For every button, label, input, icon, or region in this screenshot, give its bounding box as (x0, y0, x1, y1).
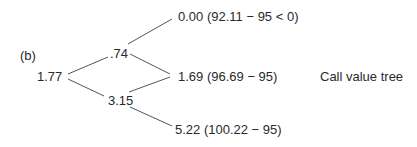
diagram-caption: Call value tree (320, 69, 403, 84)
leaf-uu-label: 0.00 (92.11 − 95 < 0) (178, 9, 298, 24)
panel-label: (b) (20, 48, 36, 63)
leaf-ud-label: 1.69 (96.69 − 95) (178, 69, 277, 84)
edge-down-dd (130, 107, 172, 126)
root-node-value: 1.77 (37, 69, 62, 84)
edge-down-ud (129, 77, 170, 92)
edge-up-ud (130, 54, 170, 74)
up-node-value: .74 (110, 46, 128, 61)
down-node-value: 3.15 (108, 93, 133, 108)
edge-root-up (68, 57, 108, 74)
leaf-dd-label: 5.22 (100.22 − 95) (175, 122, 282, 137)
edge-up-uu (128, 19, 172, 44)
edge-root-down (68, 79, 104, 96)
